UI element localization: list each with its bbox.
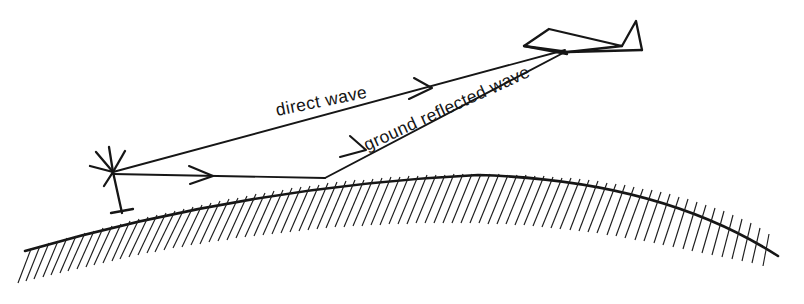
diagram-canvas: direct wave ground reflected wave — [0, 0, 804, 304]
aircraft-tail-fin — [622, 21, 642, 50]
ground-surface — [18, 174, 778, 283]
ground-hatching — [18, 174, 769, 283]
antenna-mast — [113, 172, 122, 213]
transmitting-antenna — [90, 147, 133, 213]
antenna-element-5 — [104, 172, 113, 186]
incident-ray-line — [113, 174, 325, 178]
propagation-diagram: direct wave ground reflected wave — [0, 0, 804, 304]
direct-wave-ray — [113, 50, 565, 172]
ground-reflected-wave-label: ground reflected wave — [360, 62, 533, 155]
aircraft — [524, 21, 642, 54]
direct-wave-line — [113, 50, 565, 172]
incident-ray — [113, 166, 325, 184]
direct-wave-label: direct wave — [274, 82, 369, 120]
